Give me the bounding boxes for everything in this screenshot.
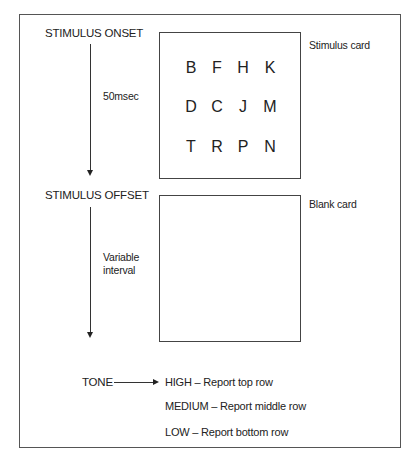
letter-cell: H — [233, 60, 253, 76]
blank-card-label: Blank card — [309, 199, 357, 210]
tone-option-low: LOW – Report bottom row — [165, 427, 288, 438]
tone-arrow-right-icon — [153, 379, 159, 385]
offset-timeline-line — [90, 207, 91, 333]
onset-timeline-line — [90, 44, 91, 171]
blank-card — [159, 195, 301, 342]
letter-cell: B — [181, 60, 201, 76]
tone-label: TONE — [82, 377, 113, 389]
letter-cell: D — [181, 99, 201, 115]
tone-arrow-line — [114, 382, 154, 383]
onset-duration-label: 50msec — [103, 91, 139, 102]
letter-cell: J — [233, 99, 253, 115]
offset-duration-label-line2: interval — [103, 265, 135, 276]
stimulus-card-label: Stimulus card — [309, 40, 370, 51]
letter-cell: T — [181, 139, 201, 155]
tone-option-medium: MEDIUM – Report middle row — [165, 401, 306, 412]
letter-cell: N — [260, 139, 280, 155]
letter-cell: R — [207, 139, 227, 155]
stimulus-offset-label: STIMULUS OFFSET — [45, 190, 149, 202]
letter-cell: P — [233, 139, 253, 155]
letter-cell: K — [260, 60, 280, 76]
onset-arrow-down-icon — [87, 170, 93, 176]
stimulus-onset-label: STIMULUS ONSET — [45, 28, 143, 40]
letter-cell: C — [207, 99, 227, 115]
letter-cell: F — [207, 60, 227, 76]
stimulus-card: B F H K D C J M T R P N — [159, 32, 301, 179]
offset-arrow-down-icon — [87, 332, 93, 338]
tone-option-high: HIGH – Report top row — [165, 377, 273, 388]
letter-cell: M — [260, 99, 280, 115]
stimulus-letter-grid: B F H K D C J M T R P N — [160, 33, 300, 178]
offset-duration-label-line1: Variable — [103, 252, 139, 263]
